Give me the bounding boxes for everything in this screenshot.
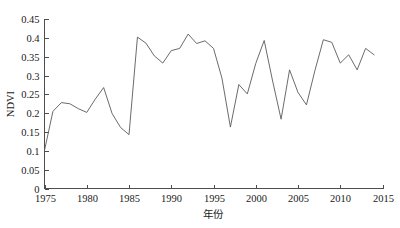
y-tick-label: 0.2 <box>26 108 39 119</box>
y-tick-label: 0.05 <box>21 165 39 176</box>
y-tick-label: 0.35 <box>21 52 39 63</box>
ndvi-series-line <box>45 34 375 150</box>
y-tick-label: 0.1 <box>26 146 39 157</box>
x-tick-label: 2005 <box>288 193 309 204</box>
y-tick-label: 0.4 <box>26 33 40 44</box>
y-tick-label: 0.25 <box>21 89 39 100</box>
y-tick-label: 0.45 <box>21 14 39 25</box>
y-tick-label: 0.3 <box>26 71 39 82</box>
x-tick-label: 1995 <box>204 193 225 204</box>
x-axis-tick-labels: 197519801985199019952000200520102015 <box>35 193 394 204</box>
x-axis-title: 年份 <box>203 208 224 220</box>
x-tick-label: 1985 <box>119 193 140 204</box>
x-tick-label: 1975 <box>35 193 56 204</box>
x-tick-label: 2000 <box>246 193 267 204</box>
x-tick-label: 1980 <box>77 193 98 204</box>
x-tick-label: 1990 <box>161 193 182 204</box>
y-axis-title: NDVI <box>5 90 16 117</box>
y-axis-tick-labels: 00.050.10.150.20.250.30.350.40.45 <box>21 14 40 195</box>
x-axis-ticks <box>46 185 384 189</box>
y-tick-label: 0.15 <box>21 127 39 138</box>
ndvi-time-series-chart: 00.050.10.150.20.250.30.350.40.45 197519… <box>0 0 400 228</box>
y-axis-ticks <box>45 20 49 190</box>
x-tick-label: 2010 <box>330 193 351 204</box>
x-tick-label: 2015 <box>373 193 394 204</box>
chart-svg: 00.050.10.150.20.250.30.350.40.45 197519… <box>0 0 400 228</box>
